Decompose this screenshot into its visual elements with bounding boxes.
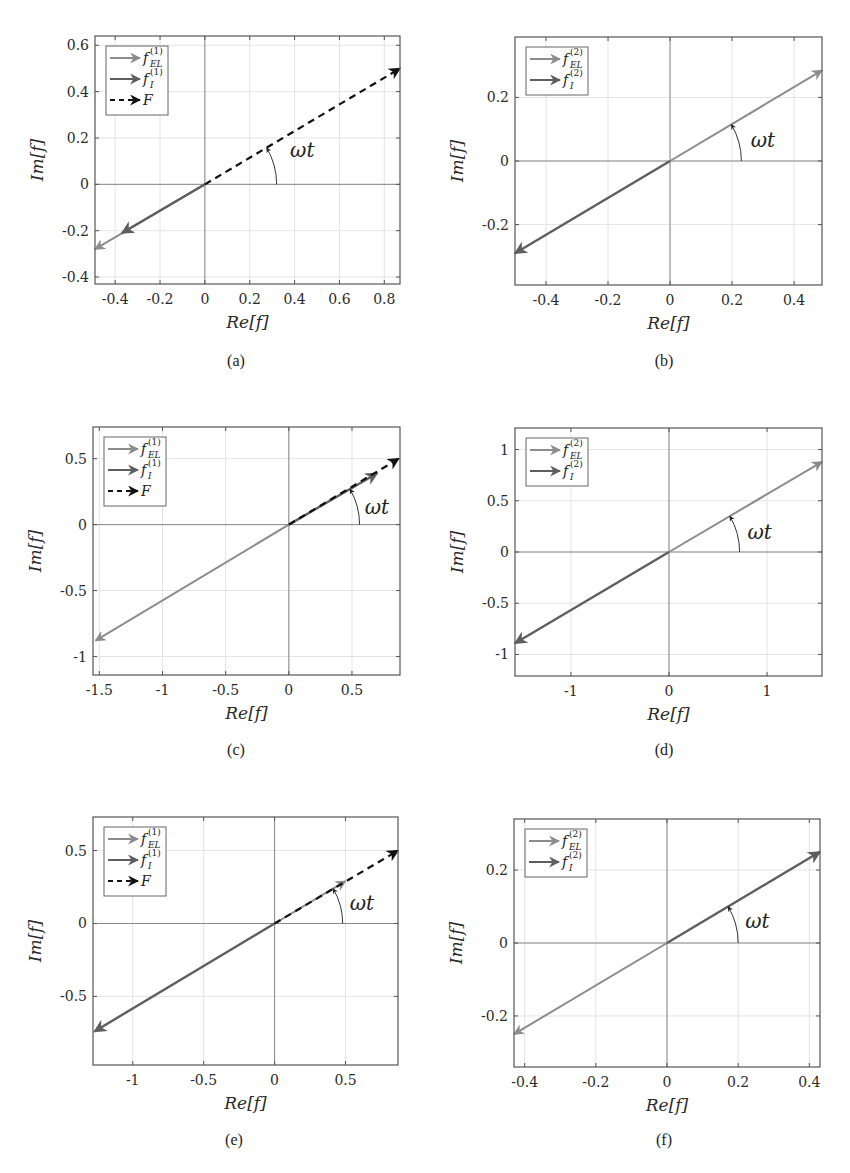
- x-tick-label: 0.2: [727, 1074, 749, 1090]
- svg-text:(2): (2): [569, 850, 582, 860]
- x-tick-label: -0.4: [511, 1074, 538, 1090]
- y-tick-label: -0.2: [481, 1008, 508, 1024]
- svg-text:I: I: [568, 863, 573, 873]
- y-axis-label: Im[f]: [446, 921, 466, 965]
- svg-text:(2): (2): [569, 829, 582, 839]
- phasor-arrow-f-el-2-: [514, 943, 667, 1034]
- panel-f: -0.4-0.200.20.4-0.200.2Re[f]Im[f]ωtf(2)E…: [0, 0, 850, 1173]
- caption-f: (f): [634, 1131, 694, 1149]
- y-tick-label: 0: [499, 935, 508, 951]
- phasor-plot-f: -0.4-0.200.20.4-0.200.2Re[f]Im[f]ωtf(2)E…: [0, 0, 850, 1173]
- x-axis-label: Re[f]: [645, 1095, 689, 1115]
- x-tick-label: 0: [663, 1074, 672, 1090]
- angle-label: ωt: [745, 909, 770, 933]
- y-tick-label: 0.2: [486, 862, 508, 878]
- phasor-arrow-f-i-2-: [667, 852, 820, 943]
- x-tick-label: 0.4: [798, 1074, 820, 1090]
- angle-arc-icon: [728, 907, 738, 943]
- legend: f(2)ELf(2)I: [525, 829, 587, 877]
- x-tick-label: -0.2: [582, 1074, 609, 1090]
